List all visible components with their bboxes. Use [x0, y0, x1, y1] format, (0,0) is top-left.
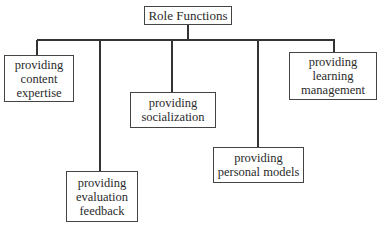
node-socialization: providing socialization: [130, 92, 216, 128]
node-evaluation-feedback: providing evaluation feedback: [66, 171, 138, 222]
node-learning-management: providing learning management: [289, 52, 377, 100]
root-node-role-functions: Role Functions: [144, 6, 232, 25]
node-personal-models: providing personal models: [213, 147, 304, 183]
node-content-expertise: providing content expertise: [4, 55, 74, 102]
